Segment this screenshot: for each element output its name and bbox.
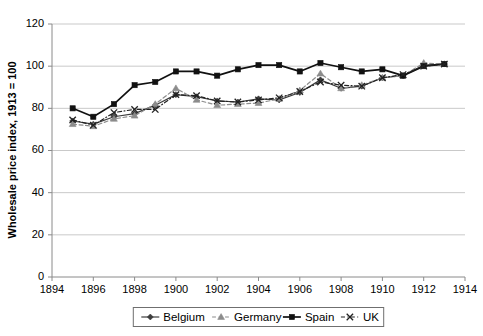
x-tick-label-1896: 1896: [81, 283, 105, 295]
marker-square: [256, 63, 261, 68]
marker-square: [235, 67, 240, 72]
y-tick-label-60: 60: [32, 143, 44, 155]
y-tick-label-120: 120: [26, 17, 44, 29]
marker-square: [70, 106, 75, 111]
marker-triangle: [173, 85, 180, 91]
x-tick-label-1910: 1910: [370, 283, 394, 295]
y-axis-tick-labels: 020406080100120: [26, 17, 44, 282]
y-tick-label-20: 20: [32, 228, 44, 240]
series-line-uk: [73, 64, 445, 125]
x-tick-label-1908: 1908: [329, 283, 353, 295]
marker-square: [91, 114, 96, 119]
marker-square: [380, 67, 385, 72]
x-tick-label-1900: 1900: [164, 283, 188, 295]
chart-legend[interactable]: BelgiumGermanySpainUK: [133, 308, 383, 327]
series-line-belgium: [73, 64, 445, 124]
wholesale-price-index-line-chart: 020406080100120 189418961898190019021904…: [0, 0, 483, 336]
marker-square: [277, 63, 282, 68]
legend-label-uk: UK: [363, 311, 379, 323]
marker-square: [153, 79, 158, 84]
marker-square: [339, 65, 344, 70]
marker-square: [173, 69, 178, 74]
x-axis-tick-labels: 1894189618981900190219041906190819101912…: [40, 283, 477, 295]
marker-square: [289, 314, 294, 319]
legend-label-belgium: Belgium: [163, 311, 205, 323]
x-tick-label-1914: 1914: [453, 283, 477, 295]
marker-square: [359, 69, 364, 74]
series-line-germany: [73, 63, 445, 126]
series-spain: [70, 60, 447, 119]
x-tick-label-1912: 1912: [411, 283, 435, 295]
x-tick-label-1898: 1898: [122, 283, 146, 295]
y-tick-label-0: 0: [38, 270, 44, 282]
legend-label-spain: Spain: [305, 311, 334, 323]
marker-square: [318, 60, 323, 65]
series-uk: [69, 61, 447, 129]
legend-label-germany: Germany: [234, 311, 282, 323]
gridlines: [52, 24, 465, 235]
marker-square: [111, 102, 116, 107]
marker-square: [297, 69, 302, 74]
marker-triangle: [317, 70, 324, 76]
x-tick-label-1902: 1902: [205, 283, 229, 295]
marker-square: [194, 69, 199, 74]
marker-square: [132, 83, 137, 88]
y-tick-label-100: 100: [26, 59, 44, 71]
marker-square: [215, 73, 220, 78]
y-axis-title: Wholesale price index, 1913 = 100: [6, 61, 18, 238]
y-tick-label-80: 80: [32, 101, 44, 113]
chart-container: 020406080100120 189418961898190019021904…: [0, 0, 483, 336]
data-series-layer: [69, 60, 448, 129]
y-tick-label-40: 40: [32, 186, 44, 198]
x-tick-label-1894: 1894: [40, 283, 64, 295]
x-tick-label-1904: 1904: [246, 283, 270, 295]
x-tick-label-1906: 1906: [288, 283, 312, 295]
